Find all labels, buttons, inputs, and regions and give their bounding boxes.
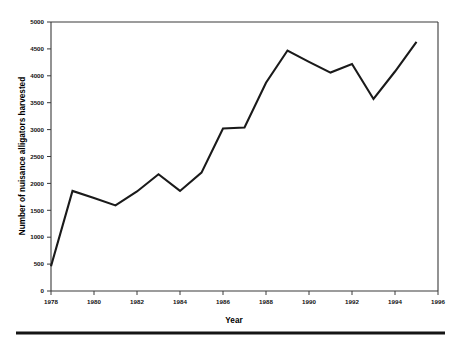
y-tick-label-4000: 4000 (30, 72, 44, 79)
x-axis-tick-labels: 1978 1980 1982 1984 1986 1988 1990 1992 … (44, 298, 445, 305)
x-tick-label-1986: 1986 (216, 298, 230, 305)
y-tick-label-0: 0 (41, 287, 45, 294)
axes-frame (51, 22, 438, 291)
x-tick-label-1982: 1982 (130, 298, 144, 305)
x-tick-label-1996: 1996 (431, 298, 445, 305)
y-tick-label-4500: 4500 (30, 45, 44, 52)
x-axis-title: Year (225, 316, 243, 325)
y-axis-tick-labels: 0 500 1000 1500 2000 2500 3000 3500 4000… (30, 18, 44, 294)
chart-figure: 0 500 1000 1500 2000 2500 3000 3500 4000… (0, 0, 467, 347)
y-tick-label-1500: 1500 (30, 207, 44, 214)
data-series-line (51, 42, 417, 266)
y-axis-title: Number of nuisance alligators harvested (18, 77, 27, 235)
y-tick-label-3000: 3000 (30, 126, 44, 133)
x-axis-ticks (51, 291, 438, 295)
x-tick-label-1980: 1980 (87, 298, 101, 305)
y-tick-label-500: 500 (34, 260, 45, 267)
x-tick-label-1988: 1988 (259, 298, 273, 305)
line-chart: 0 500 1000 1500 2000 2500 3000 3500 4000… (0, 0, 467, 347)
y-tick-label-1000: 1000 (30, 233, 44, 240)
x-tick-label-1992: 1992 (345, 298, 359, 305)
x-tick-label-1984: 1984 (173, 298, 187, 305)
y-tick-label-5000: 5000 (30, 18, 44, 25)
y-tick-label-2000: 2000 (30, 180, 44, 187)
y-tick-label-2500: 2500 (30, 153, 44, 160)
x-tick-label-1978: 1978 (44, 298, 58, 305)
x-tick-label-1990: 1990 (302, 298, 316, 305)
y-axis-ticks (47, 22, 51, 291)
y-tick-label-3500: 3500 (30, 99, 44, 106)
x-tick-label-1994: 1994 (388, 298, 402, 305)
